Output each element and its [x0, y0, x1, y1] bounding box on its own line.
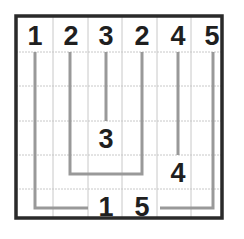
number-path-puzzle-board: 1232453415 — [0, 0, 244, 239]
grid-cell-r3-c1[interactable] — [53, 121, 88, 155]
grid-cell-r1-c4[interactable] — [157, 52, 191, 86]
clue-number-r0-c1: 2 — [63, 21, 78, 51]
grid-cell-r1-c0[interactable] — [16, 52, 53, 86]
grid-cell-r2-c0[interactable] — [16, 86, 53, 121]
clue-number-r0-c2: 3 — [98, 21, 113, 51]
grid-cell-r2-c1[interactable] — [53, 86, 88, 121]
grid-cell-r5-c1[interactable] — [53, 189, 88, 218]
grid-cell-r3-c0[interactable] — [16, 121, 53, 155]
grid-cell-r5-c5[interactable] — [191, 189, 222, 218]
grid-cell-r5-c4[interactable] — [157, 189, 191, 218]
grid-cell-r2-c2[interactable] — [88, 86, 122, 121]
grid-cell-r3-c5[interactable] — [191, 121, 222, 155]
grid-cell-r2-c3[interactable] — [122, 86, 157, 121]
grid-cell-r4-c5[interactable] — [191, 155, 222, 189]
grid-cell-r4-c1[interactable] — [53, 155, 88, 189]
clue-number-r0-c5: 5 — [204, 21, 219, 51]
grid-cell-r1-c2[interactable] — [88, 52, 122, 86]
grid-cell-r3-c3[interactable] — [122, 121, 157, 155]
clue-number-r5-c2: 1 — [98, 192, 113, 222]
grid-cell-r1-c5[interactable] — [191, 52, 222, 86]
clue-number-r5-c3: 5 — [134, 192, 149, 222]
grid-cells[interactable] — [16, 16, 222, 218]
grid-cell-r4-c0[interactable] — [16, 155, 53, 189]
clue-number-r4-c4: 4 — [170, 158, 185, 188]
grid-cell-r5-c0[interactable] — [16, 189, 53, 218]
grid-cell-r4-c2[interactable] — [88, 155, 122, 189]
grid-cell-r3-c4[interactable] — [157, 121, 191, 155]
grid-cell-r1-c3[interactable] — [122, 52, 157, 86]
clue-number-r0-c4: 4 — [170, 21, 185, 51]
grid-cell-r2-c4[interactable] — [157, 86, 191, 121]
clue-number-r0-c3: 2 — [134, 21, 149, 51]
grid-cell-r1-c1[interactable] — [53, 52, 88, 86]
clue-number-r0-c0: 1 — [27, 21, 42, 51]
grid-cell-r4-c3[interactable] — [122, 155, 157, 189]
clue-number-r3-c2: 3 — [98, 124, 113, 154]
grid-cell-r2-c5[interactable] — [191, 86, 222, 121]
